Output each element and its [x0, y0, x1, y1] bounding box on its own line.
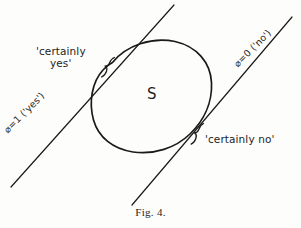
- label-certainly-yes-line1: 'certainly: [36, 45, 86, 57]
- region-label-s: S: [147, 86, 157, 103]
- tangent-line-no: [132, 17, 292, 205]
- label-certainly-yes: 'certainlyyes': [36, 46, 86, 70]
- label-certainly-no: 'certainly no': [205, 134, 274, 146]
- diagram-canvas: [0, 0, 301, 228]
- figure-4-diagram: S 'certainlyyes' 'certainly no' ⌀=1 ('ye…: [0, 0, 301, 228]
- figure-caption: Fig. 4.: [0, 206, 301, 218]
- label-certainly-yes-line2: yes': [36, 58, 86, 70]
